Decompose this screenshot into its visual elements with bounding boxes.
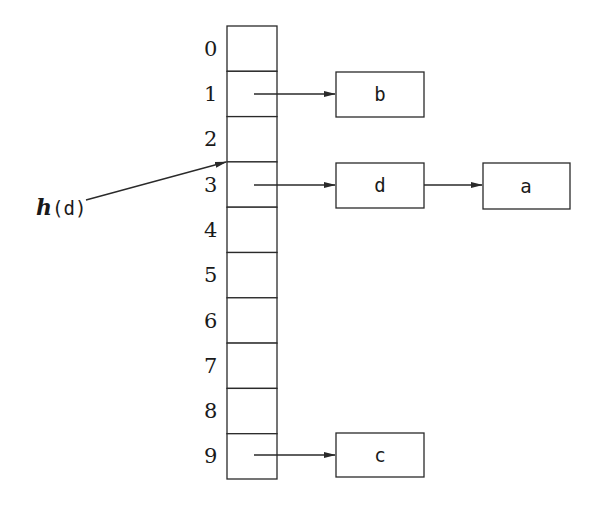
index-label: 6 bbox=[204, 309, 217, 333]
table-slot-5 bbox=[227, 253, 277, 298]
node-b: b bbox=[336, 72, 424, 117]
table-slot-8 bbox=[227, 388, 277, 433]
index-label: 3 bbox=[204, 173, 217, 197]
index-label: 9 bbox=[204, 444, 217, 468]
index-label: 5 bbox=[204, 263, 217, 287]
table-slot-2 bbox=[227, 117, 277, 162]
hash-function-name: h bbox=[36, 194, 52, 220]
index-label: 8 bbox=[204, 399, 217, 423]
index-labels: 0 1 2 3 4 5 6 7 8 9 bbox=[204, 37, 217, 468]
hash-function-arg: (d) bbox=[52, 197, 86, 219]
table-slot-0 bbox=[227, 26, 277, 71]
index-label: 2 bbox=[204, 127, 217, 151]
node-key: a bbox=[520, 175, 531, 197]
node-d: d bbox=[336, 163, 424, 208]
index-label: 4 bbox=[204, 218, 217, 242]
chain-pointers bbox=[254, 94, 482, 455]
hash-function-pointer: h(d) bbox=[36, 162, 226, 220]
table-slot-6 bbox=[227, 298, 277, 343]
node-key: c bbox=[374, 444, 385, 466]
hash-label: h(d) bbox=[36, 194, 86, 220]
index-label: 7 bbox=[204, 354, 217, 378]
node-key: b bbox=[374, 83, 385, 105]
table-slot-7 bbox=[227, 343, 277, 388]
node-key: d bbox=[374, 174, 385, 196]
index-label: 1 bbox=[204, 82, 217, 106]
index-label: 0 bbox=[204, 37, 217, 61]
table-slot-9 bbox=[227, 434, 277, 479]
hash-table-diagram: 0 1 2 3 4 5 6 7 8 9 b d a c h(d) bbox=[0, 0, 603, 513]
node-c: c bbox=[336, 433, 424, 477]
node-a: a bbox=[483, 163, 570, 209]
table-slot-4 bbox=[227, 207, 277, 252]
